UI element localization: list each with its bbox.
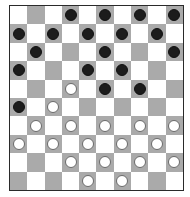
dark-square-r1c2[interactable]: [45, 24, 62, 42]
dark-square-r4c5[interactable]: [96, 80, 113, 98]
black-piece-icon[interactable]: [99, 9, 111, 21]
light-square-r7c9: [166, 135, 183, 153]
dark-square-r3c2[interactable]: [45, 61, 62, 79]
white-piece-icon[interactable]: [134, 156, 146, 168]
dark-square-r1c6[interactable]: [114, 24, 131, 42]
dark-square-r6c9[interactable]: [166, 116, 183, 134]
dark-square-r7c2[interactable]: [45, 135, 62, 153]
light-square-r1c3: [62, 24, 79, 42]
white-piece-icon[interactable]: [65, 156, 77, 168]
dark-square-r1c0[interactable]: [10, 24, 27, 42]
light-square-r9c3: [62, 172, 79, 190]
dark-square-r0c3[interactable]: [62, 6, 79, 24]
light-square-r0c6: [114, 6, 131, 24]
dark-square-r3c4[interactable]: [79, 61, 96, 79]
black-piece-icon[interactable]: [13, 28, 25, 40]
dark-square-r7c4[interactable]: [79, 135, 96, 153]
dark-square-r3c0[interactable]: [10, 61, 27, 79]
dark-square-r4c3[interactable]: [62, 80, 79, 98]
dark-square-r8c9[interactable]: [166, 153, 183, 171]
dark-square-r9c4[interactable]: [79, 172, 96, 190]
dark-square-r6c5[interactable]: [96, 116, 113, 134]
black-piece-icon[interactable]: [13, 64, 25, 76]
dark-square-r7c6[interactable]: [114, 135, 131, 153]
dark-square-r4c7[interactable]: [131, 80, 148, 98]
dark-square-r3c6[interactable]: [114, 61, 131, 79]
dark-square-r2c3[interactable]: [62, 43, 79, 61]
white-piece-icon[interactable]: [82, 175, 94, 187]
dark-square-r1c8[interactable]: [148, 24, 165, 42]
dark-square-r8c3[interactable]: [62, 153, 79, 171]
dark-square-r6c7[interactable]: [131, 116, 148, 134]
black-piece-icon[interactable]: [116, 28, 128, 40]
light-square-r7c7: [131, 135, 148, 153]
black-piece-icon[interactable]: [82, 64, 94, 76]
white-piece-icon[interactable]: [65, 120, 77, 132]
dark-square-r1c4[interactable]: [79, 24, 96, 42]
dark-square-r5c8[interactable]: [148, 98, 165, 116]
light-square-r2c2: [45, 43, 62, 61]
light-square-r2c6: [114, 43, 131, 61]
dark-square-r9c8[interactable]: [148, 172, 165, 190]
black-piece-icon[interactable]: [134, 9, 146, 21]
dark-square-r0c7[interactable]: [131, 6, 148, 24]
dark-square-r5c0[interactable]: [10, 98, 27, 116]
black-piece-icon[interactable]: [99, 46, 111, 58]
white-piece-icon[interactable]: [47, 138, 59, 150]
black-piece-icon[interactable]: [99, 83, 111, 95]
dark-square-r2c5[interactable]: [96, 43, 113, 61]
light-square-r0c0: [10, 6, 27, 24]
dark-square-r5c2[interactable]: [45, 98, 62, 116]
black-piece-icon[interactable]: [151, 28, 163, 40]
white-piece-icon[interactable]: [99, 156, 111, 168]
dark-square-r5c6[interactable]: [114, 98, 131, 116]
dark-square-r8c1[interactable]: [27, 153, 44, 171]
dark-square-r2c7[interactable]: [131, 43, 148, 61]
white-piece-icon[interactable]: [116, 175, 128, 187]
black-piece-icon[interactable]: [116, 64, 128, 76]
white-piece-icon[interactable]: [82, 138, 94, 150]
black-piece-icon[interactable]: [30, 46, 42, 58]
white-piece-icon[interactable]: [65, 83, 77, 95]
light-square-r8c2: [45, 153, 62, 171]
dark-square-r0c9[interactable]: [166, 6, 183, 24]
dark-square-r7c8[interactable]: [148, 135, 165, 153]
dark-square-r5c4[interactable]: [79, 98, 96, 116]
dark-square-r3c8[interactable]: [148, 61, 165, 79]
dark-square-r9c2[interactable]: [45, 172, 62, 190]
black-piece-icon[interactable]: [82, 28, 94, 40]
white-piece-icon[interactable]: [13, 138, 25, 150]
dark-square-r4c9[interactable]: [166, 80, 183, 98]
white-piece-icon[interactable]: [151, 138, 163, 150]
dark-square-r9c6[interactable]: [114, 172, 131, 190]
dark-square-r7c0[interactable]: [10, 135, 27, 153]
white-piece-icon[interactable]: [30, 120, 42, 132]
white-piece-icon[interactable]: [47, 101, 59, 113]
white-piece-icon[interactable]: [168, 120, 180, 132]
black-piece-icon[interactable]: [168, 9, 180, 21]
white-piece-icon[interactable]: [168, 156, 180, 168]
black-piece-icon[interactable]: [168, 46, 180, 58]
dark-square-r8c5[interactable]: [96, 153, 113, 171]
black-piece-icon[interactable]: [13, 101, 25, 113]
dark-square-r2c1[interactable]: [27, 43, 44, 61]
light-square-r5c3: [62, 98, 79, 116]
dark-square-r8c7[interactable]: [131, 153, 148, 171]
black-piece-icon[interactable]: [134, 83, 146, 95]
black-piece-icon[interactable]: [47, 28, 59, 40]
white-piece-icon[interactable]: [134, 120, 146, 132]
dark-square-r6c1[interactable]: [27, 116, 44, 134]
dark-square-r9c0[interactable]: [10, 172, 27, 190]
white-piece-icon[interactable]: [99, 120, 111, 132]
dark-square-r2c9[interactable]: [166, 43, 183, 61]
dark-square-r0c1[interactable]: [27, 6, 44, 24]
white-piece-icon[interactable]: [116, 138, 128, 150]
light-square-r9c9: [166, 172, 183, 190]
dark-square-r0c5[interactable]: [96, 6, 113, 24]
dark-square-r6c3[interactable]: [62, 116, 79, 134]
light-square-r8c0: [10, 153, 27, 171]
light-square-r3c7: [131, 61, 148, 79]
light-square-r7c3: [62, 135, 79, 153]
dark-square-r4c1[interactable]: [27, 80, 44, 98]
black-piece-icon[interactable]: [65, 9, 77, 21]
